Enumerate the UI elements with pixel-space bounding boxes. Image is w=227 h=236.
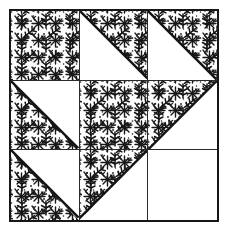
quilt-patch-print (11, 150, 80, 220)
quilt-cell-r3c2 (80, 150, 149, 220)
quilt-patch-print (11, 11, 80, 81)
quilt-patch-print (80, 81, 149, 151)
quilt-cell-r2c3 (148, 81, 217, 151)
quilt-patch-print (148, 11, 217, 81)
quilt-cell-r1c1 (11, 11, 80, 81)
quilt-cell-r3c1 (11, 150, 80, 220)
quilt-patch-print (11, 81, 80, 151)
quilt-patch-print (148, 81, 217, 151)
quilt-patch-print (80, 150, 149, 220)
quilt-cell-r1c2 (80, 11, 149, 81)
quilt-block-grid (9, 9, 219, 222)
quilt-cell-r2c2 (80, 81, 149, 151)
quilt-block-figure (0, 0, 227, 236)
quilt-cell-r3c3 (148, 150, 217, 220)
quilt-cell-r2c1 (11, 81, 80, 151)
quilt-patch-print (80, 11, 149, 81)
quilt-cell-r1c3 (148, 11, 217, 81)
